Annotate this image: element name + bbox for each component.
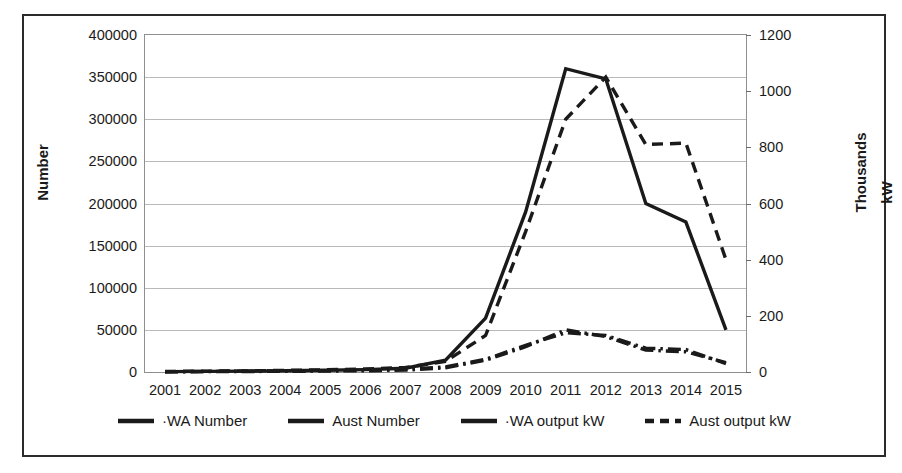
legend-label: Aust output kW — [689, 412, 791, 429]
y-axis-left-tick-label: 300000 — [89, 112, 137, 127]
x-axis-tick-label: 2003 — [229, 383, 261, 398]
x-axis-tick-label: 2002 — [189, 383, 221, 398]
y-axis-right-tickmark — [746, 35, 751, 36]
chart-legend: ·WA NumberAust Number·WA output kWAust o… — [24, 412, 884, 429]
x-axis-tick-label: 2012 — [590, 383, 622, 398]
y-axis-left-tick-label: 150000 — [89, 238, 137, 253]
series-line — [165, 333, 726, 372]
x-axis-tick-label: 2015 — [710, 383, 742, 398]
legend-label: ·WA Number — [162, 412, 247, 429]
x-axis-tick-label: 2006 — [349, 383, 381, 398]
y-axis-left-tick-label: 100000 — [89, 281, 137, 296]
y-axis-right-tickmark — [746, 147, 751, 148]
y-axis-right-tickmark — [746, 316, 751, 317]
x-axis-tick-label: 2007 — [389, 383, 421, 398]
y-axis-right-tickmark — [746, 91, 751, 92]
y-axis-left-tick-label: 350000 — [89, 70, 137, 85]
x-axis-tick-label: 2005 — [309, 383, 341, 398]
y-axis-right-tickmark — [746, 204, 751, 205]
legend-label: Aust Number — [332, 412, 420, 429]
chart-figure: Number Thousands kW 05000010000015000020… — [22, 14, 886, 457]
y-axis-left-tick-label: 0 — [129, 365, 137, 380]
y-axis-right-tick-label: 600 — [759, 196, 783, 211]
x-axis-tick-label: 2013 — [630, 383, 662, 398]
legend-item[interactable]: Aust Number — [287, 412, 420, 429]
x-axis-tick-label: 2014 — [670, 383, 702, 398]
series-lines — [145, 35, 746, 372]
plot-area: 0500001000001500002000002500003000003500… — [144, 34, 747, 373]
legend-item[interactable]: ·WA Number — [117, 412, 247, 429]
legend-swatch-icon — [117, 414, 155, 428]
y-axis-right-title-kw: kW — [878, 133, 895, 253]
legend-swatch-icon — [644, 414, 682, 428]
x-axis-tick-label: 2004 — [269, 383, 301, 398]
y-axis-right-title-thousands: Thousands — [852, 113, 869, 233]
y-axis-right-tick-label: 1000 — [759, 84, 791, 99]
legend-item[interactable]: Aust output kW — [644, 412, 791, 429]
x-axis-tick-label: 2010 — [509, 383, 541, 398]
x-axis-tick-label: 2008 — [429, 383, 461, 398]
series-line — [165, 77, 726, 371]
y-axis-right-tick-label: 200 — [759, 309, 783, 324]
y-axis-right-tickmark — [746, 260, 751, 261]
x-axis-tick-label: 2001 — [149, 383, 181, 398]
y-axis-right-tick-label: 0 — [759, 365, 767, 380]
y-axis-left-title: Number — [34, 113, 51, 233]
x-axis-tick-label: 2011 — [550, 383, 581, 398]
y-axis-left-tick-label: 200000 — [89, 196, 137, 211]
y-axis-right-tick-label: 800 — [759, 140, 783, 155]
y-axis-left-tick-label: 50000 — [97, 323, 137, 338]
legend-swatch-icon — [287, 414, 325, 428]
y-axis-right-tick-label: 1200 — [759, 28, 791, 43]
y-axis-left-tick-label: 400000 — [89, 28, 137, 43]
series-line — [165, 69, 726, 372]
y-axis-right-tickmark — [746, 372, 751, 373]
y-axis-left-tick-label: 250000 — [89, 154, 137, 169]
x-axis-tick-label: 2009 — [469, 383, 501, 398]
y-axis-right-tick-label: 400 — [759, 252, 783, 267]
legend-label: ·WA output kW — [505, 412, 604, 429]
legend-swatch-icon — [460, 414, 498, 428]
legend-item[interactable]: ·WA output kW — [460, 412, 604, 429]
